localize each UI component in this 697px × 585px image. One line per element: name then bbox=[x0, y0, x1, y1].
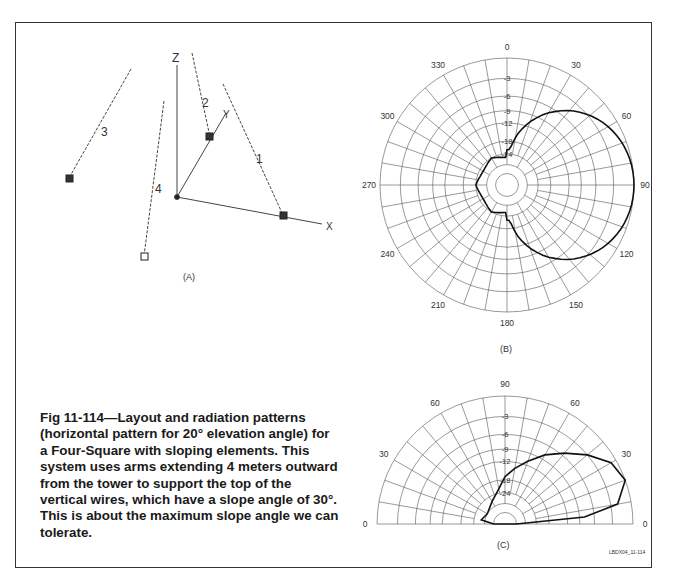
db-ring-label: -12 bbox=[502, 119, 513, 128]
panel-a-label: (A) bbox=[183, 272, 195, 282]
azimuth-angle-label: 330 bbox=[431, 60, 445, 70]
azimuth-angle-label: 0 bbox=[505, 42, 510, 52]
db-ring-label: -3 bbox=[502, 412, 509, 421]
panel-a-layout bbox=[66, 53, 322, 260]
element-2-label: 2 bbox=[202, 96, 209, 110]
azimuth-angle-label: 300 bbox=[380, 111, 394, 121]
z-axis-label: Z bbox=[172, 51, 179, 65]
element-2-feed-icon bbox=[206, 133, 213, 140]
db-ring-label: -12 bbox=[500, 457, 511, 466]
panel-c-label: (C) bbox=[497, 540, 510, 550]
db-ring-label: -6 bbox=[504, 92, 511, 101]
x-axis-line bbox=[177, 197, 322, 224]
azimuth-angle-label: 150 bbox=[569, 300, 583, 310]
element-2-wire bbox=[192, 53, 210, 137]
element-4-feed-icon bbox=[141, 253, 148, 260]
element-4-wire bbox=[144, 101, 164, 256]
azimuth-angle-label: 30 bbox=[571, 60, 581, 70]
elevation-angle-label: 30 bbox=[379, 449, 389, 459]
db-ring-label: -18 bbox=[502, 137, 513, 146]
figure-credit: LBDX04_11-114 bbox=[609, 549, 645, 555]
db-ring-label: -24 bbox=[500, 489, 511, 498]
db-ring-label: -18 bbox=[500, 476, 511, 485]
db-ring-label: -9 bbox=[504, 107, 511, 116]
y-axis-label: Y bbox=[223, 109, 230, 120]
azimuth-angle-label: 60 bbox=[622, 111, 632, 121]
y-axis-line bbox=[177, 113, 226, 197]
azimuth-angle-label: 210 bbox=[431, 300, 445, 310]
db-ring-label: -6 bbox=[502, 430, 509, 439]
element-1-feed-icon bbox=[280, 212, 287, 219]
elevation-angle-label: 30 bbox=[622, 449, 632, 459]
azimuth-angle-label: 120 bbox=[619, 249, 633, 259]
azimuth-angle-label: 270 bbox=[362, 180, 376, 190]
elevation-angle-label: 90 bbox=[500, 379, 510, 389]
element-3-wire bbox=[69, 69, 131, 178]
panel-b-azimuth-plot: 0306090120150180210240270300330-3-6-9-12… bbox=[362, 42, 650, 354]
elevation-angle-label: 60 bbox=[430, 398, 440, 408]
db-ring-label: -24 bbox=[502, 150, 513, 159]
azimuth-angle-label: 240 bbox=[380, 249, 394, 259]
elevation-angle-label: 60 bbox=[570, 398, 580, 408]
elevation-angle-label: 0 bbox=[363, 519, 368, 529]
element-1-label: 1 bbox=[256, 152, 263, 166]
panel-c-elevation-plot: 030609060300-3-6-9-12-18-24 (C) bbox=[363, 379, 648, 550]
element-1-wire bbox=[223, 84, 283, 215]
figure-caption: Fig 11-114—Layout and radiation patterns… bbox=[40, 410, 340, 541]
azimuth-angle-label: 180 bbox=[500, 318, 514, 328]
origin-point-icon bbox=[175, 195, 180, 200]
element-3-label: 3 bbox=[101, 125, 108, 139]
x-axis-label: X bbox=[326, 221, 333, 232]
elevation-angle-label: 0 bbox=[643, 519, 648, 529]
element-4-label: 4 bbox=[155, 182, 162, 196]
azimuth-angle-label: 90 bbox=[640, 180, 650, 190]
db-ring-label: -9 bbox=[502, 445, 509, 454]
db-ring-label: -3 bbox=[504, 74, 511, 83]
element-3-feed-icon bbox=[66, 175, 73, 182]
panel-b-label: (B) bbox=[500, 344, 512, 354]
